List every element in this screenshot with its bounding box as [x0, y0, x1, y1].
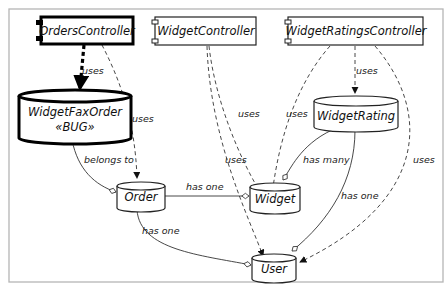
- edge-order-user: has one: [137, 210, 251, 265]
- component-port-icon: [285, 39, 291, 43]
- node-label: WidgetRatingsController: [286, 24, 428, 38]
- node-orders-controller[interactable]: OrdersController: [36, 17, 136, 44]
- node-label: OrdersController: [39, 24, 136, 38]
- node-widget[interactable]: Widget: [250, 183, 300, 214]
- diagram-canvas: uses uses uses uses uses uses uses belon…: [0, 0, 447, 301]
- node-label: Widget: [255, 192, 296, 206]
- edge-label-has-one: has one: [341, 190, 379, 201]
- node-stereotype: «BUG»: [55, 120, 94, 134]
- edge-ratingscontroller-widgetrating: uses: [355, 46, 378, 93]
- node-label: WidgetController: [157, 24, 256, 38]
- edge-label-uses: uses: [356, 65, 378, 76]
- node-widget-rating[interactable]: WidgetRating: [314, 96, 398, 132]
- diagram-frame: [9, 9, 443, 282]
- edge-label-has-many: has many: [303, 154, 350, 165]
- edge-label-belongs-to: belongs to: [84, 154, 134, 165]
- node-widget-controller[interactable]: WidgetController: [152, 17, 256, 45]
- node-label: WidgetFaxOrder: [28, 105, 123, 119]
- edge-label-uses: uses: [132, 113, 154, 124]
- edge-label-has-one: has one: [186, 181, 224, 192]
- edge-label-uses: uses: [286, 108, 308, 119]
- node-user[interactable]: User: [252, 254, 296, 283]
- component-port-icon: [152, 39, 158, 43]
- node-widget-ratings-controller[interactable]: WidgetRatingsController: [285, 17, 428, 45]
- edge-label-uses: uses: [238, 108, 260, 119]
- node-label: User: [261, 262, 288, 276]
- edge-orderscontroller-widgetfaxorder: uses: [80, 45, 104, 88]
- node-label: WidgetRating: [317, 109, 395, 123]
- edge-widgetcontroller-user: uses: [207, 46, 263, 256]
- node-label: Order: [125, 190, 159, 204]
- edge-widgetcontroller-widget: uses: [209, 46, 262, 195]
- edge-widgetrating-widget: has many: [283, 130, 350, 180]
- edge-label-has-one: has one: [142, 225, 180, 236]
- node-order[interactable]: Order: [117, 182, 165, 212]
- edge-label-uses: uses: [225, 154, 247, 165]
- edge-order-widget: has one: [163, 181, 249, 196]
- edge-widgetrating-user: has one: [292, 130, 379, 251]
- edge-label-uses: uses: [82, 65, 104, 76]
- node-widget-fax-order[interactable]: WidgetFaxOrder «BUG»: [19, 90, 131, 144]
- edge-label-uses: uses: [413, 154, 435, 165]
